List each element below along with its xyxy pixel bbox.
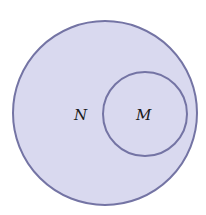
set-m-label: M [135, 106, 152, 124]
venn-diagram: N M [0, 0, 206, 215]
set-n-label: N [73, 106, 88, 124]
